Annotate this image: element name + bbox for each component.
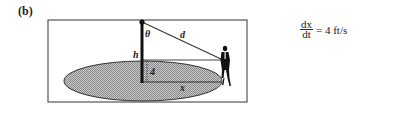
x-label: x: [179, 82, 185, 93]
four-label: 4: [149, 66, 155, 77]
lamp-post-diagram: θ d h 4 x: [0, 0, 419, 117]
lamp-icon: [139, 19, 144, 24]
equation-value: = 4 ft/s: [316, 24, 347, 36]
theta-label: θ: [145, 28, 151, 39]
derivative-fraction: dx dt: [300, 20, 313, 39]
fraction-denominator: dt: [301, 30, 312, 39]
h-label: h: [133, 49, 139, 60]
rate-equation: dx dt = 4 ft/s: [300, 20, 347, 39]
